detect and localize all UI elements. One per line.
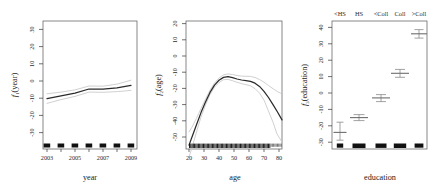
errorbar-group <box>334 122 347 140</box>
y-tick-label: -10 <box>317 105 324 113</box>
x-axis-title-education: education <box>364 173 396 182</box>
x-tick-label: 2005 <box>69 154 81 161</box>
panel-education-svg: <HS HS <Coll Coll >Coll 40 30 20 10 0 - <box>290 0 433 195</box>
y-tick-label: 10 <box>317 74 324 80</box>
x-tick-label: 80 <box>276 154 282 161</box>
y-tick-label: -20 <box>171 84 178 92</box>
y-tick-label: 0 <box>171 54 178 57</box>
category-label: HS <box>355 10 364 17</box>
rug-education <box>337 144 424 149</box>
y-axis-title-education: f3(education) <box>300 64 310 106</box>
y-tick-label: -30 <box>317 138 324 146</box>
y-axis-education: 40 30 20 10 0 -10 -20 -30 <box>317 24 332 146</box>
panel-education: <HS HS <Coll Coll >Coll 40 30 20 10 0 - <box>290 0 433 195</box>
x-tick-label: 2009 <box>125 154 137 161</box>
y-tick-label: -20 <box>317 122 324 130</box>
x-tick-label: 30 <box>201 154 207 161</box>
x-axis-age: 20 30 40 50 60 70 80 <box>186 149 282 161</box>
errorbar-group <box>372 95 390 102</box>
category-label: >Coll <box>412 10 427 17</box>
plot-box-year <box>43 21 137 149</box>
category-label: <Coll <box>374 10 389 17</box>
y-tick-label: 10 <box>28 61 35 67</box>
y-axis-title-year: f1(year) <box>10 73 20 98</box>
panel-year-svg: 30 20 10 0 -10 -20 -30 <box>0 0 145 195</box>
se-upper-age <box>189 74 282 132</box>
x-tick-label: 40 <box>216 154 222 161</box>
panel-year: 30 20 10 0 -10 -20 -30 <box>0 0 145 195</box>
y-tick-label: 40 <box>317 24 324 30</box>
panel-age-svg: 20 10 0 -10 -20 -30 -40 -50 <box>145 0 290 195</box>
y-tick-label: -30 <box>171 100 178 108</box>
y-tick-label: -10 <box>28 94 35 102</box>
y-tick-label: 20 <box>317 57 324 63</box>
panel-age: 20 10 0 -10 -20 -30 -40 -50 <box>145 0 290 195</box>
gam-partial-effects-figure: 30 20 10 0 -10 -20 -30 <box>0 0 433 195</box>
errorbar-group <box>391 69 409 77</box>
x-axis-year: 2003 2005 2007 2009 <box>41 149 137 161</box>
y-tick-label: -30 <box>28 128 35 136</box>
category-label: <HS <box>334 10 346 17</box>
y-tick-label: 30 <box>28 26 35 32</box>
y-tick-label: 20 <box>171 21 178 27</box>
y-tick-label: 0 <box>28 79 35 82</box>
x-tick-label: 2007 <box>97 154 109 161</box>
y-axis-year: 30 20 10 0 -10 -20 -30 <box>28 26 43 136</box>
plot-box-education <box>332 21 427 149</box>
y-tick-label: 20 <box>28 44 35 50</box>
y-axis-title-age: f2(age) <box>154 74 164 96</box>
category-labels-education: <HS HS <Coll Coll >Coll <box>334 10 426 17</box>
y-tick-label: 0 <box>317 91 324 94</box>
y-tick-label: -40 <box>171 117 178 125</box>
y-tick-label: -50 <box>171 133 178 141</box>
rug-age <box>189 144 282 148</box>
x-tick-label: 20 <box>186 154 192 161</box>
x-axis-title-year: year <box>83 173 97 182</box>
x-tick-label: 2003 <box>41 154 53 161</box>
rug-year <box>44 144 135 148</box>
x-tick-label: 70 <box>261 154 267 161</box>
x-axis-title-age: age <box>229 173 241 182</box>
y-axis-age: 20 10 0 -10 -20 -30 -40 -50 <box>171 21 186 142</box>
errorbar-group <box>350 115 368 121</box>
y-tick-label: 30 <box>317 41 324 47</box>
category-label: Coll <box>394 10 405 17</box>
y-tick-label: 10 <box>171 37 178 43</box>
errorbar-group <box>411 30 427 38</box>
x-tick-label: 60 <box>246 154 252 161</box>
y-tick-label: -10 <box>171 68 178 76</box>
y-tick-label: -20 <box>28 111 35 119</box>
x-tick-label: 50 <box>231 154 237 161</box>
